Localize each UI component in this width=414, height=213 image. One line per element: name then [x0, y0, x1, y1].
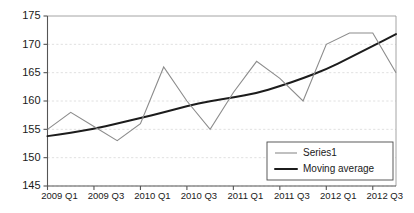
legend-label-moving-average: Moving average	[303, 163, 375, 174]
chart-legend: Series1Moving average	[267, 142, 393, 180]
y-tick-label: 155	[22, 123, 40, 135]
y-tick-label: 170	[22, 38, 40, 50]
y-tick-label: 175	[22, 9, 40, 21]
x-tick-label: 2009 Q3	[88, 190, 124, 201]
x-tick-label: 2010 Q1	[134, 190, 170, 201]
series-series1	[48, 33, 397, 141]
x-tick-label: 2012 Q1	[320, 190, 356, 201]
x-tick-label: 2011 Q1	[227, 190, 263, 201]
moving-average-line	[48, 34, 397, 136]
x-tick-label: 2009 Q1	[41, 190, 77, 201]
chart-canvas: 145150155160165170175 2009 Q12009 Q32010…	[0, 0, 414, 213]
y-tick-label: 165	[22, 66, 40, 78]
series1-line	[48, 33, 397, 141]
series-moving-average	[48, 34, 397, 136]
y-tick-label: 160	[22, 94, 40, 106]
y-axis-ticks	[44, 16, 48, 186]
x-tick-label: 2011 Q3	[274, 190, 310, 201]
y-tick-label: 150	[22, 151, 40, 163]
y-axis-tick-labels: 145150155160165170175	[22, 9, 40, 191]
line-chart: 145150155160165170175 2009 Q12009 Q32010…	[0, 0, 414, 213]
y-tick-label: 145	[22, 179, 40, 191]
x-tick-label: 2012 Q3	[367, 190, 403, 201]
legend-label-series1: Series1	[303, 147, 337, 158]
x-tick-label: 2010 Q3	[181, 190, 217, 201]
x-axis-tick-labels: 2009 Q12009 Q32010 Q12010 Q32011 Q12011 …	[41, 190, 403, 201]
